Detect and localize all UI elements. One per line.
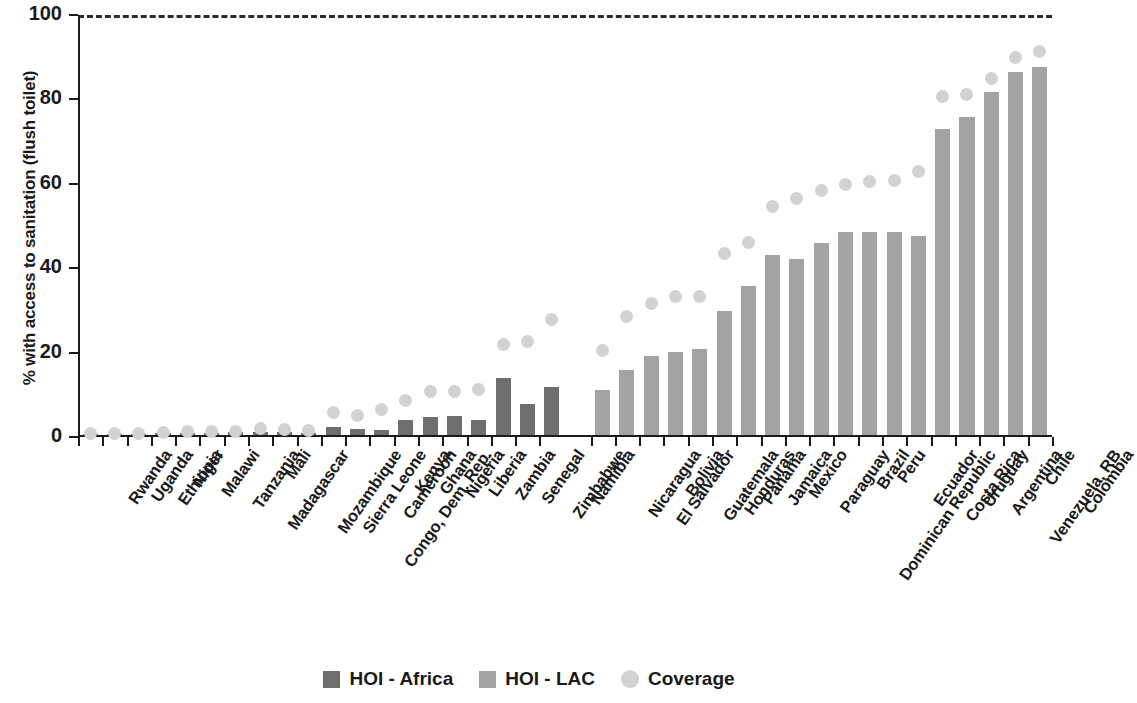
bar xyxy=(496,378,511,435)
coverage-dot xyxy=(157,426,170,439)
x-tick xyxy=(591,437,593,446)
x-tick xyxy=(785,437,787,446)
bar xyxy=(471,420,486,435)
x-tick xyxy=(467,437,469,446)
x-tick xyxy=(1052,437,1054,446)
coverage-dot xyxy=(545,313,558,326)
x-tick xyxy=(272,437,274,446)
bar xyxy=(887,232,902,435)
bar xyxy=(741,286,756,435)
y-tick-label-40: 40 xyxy=(16,255,62,278)
x-tick xyxy=(418,437,420,446)
legend-label: HOI - Africa xyxy=(349,668,453,690)
bar xyxy=(911,236,926,435)
x-tick xyxy=(979,437,981,446)
x-tick xyxy=(369,437,371,446)
x-tick xyxy=(442,437,444,446)
coverage-dot xyxy=(742,236,755,249)
x-tick xyxy=(224,437,226,446)
coverage-dot xyxy=(815,184,828,197)
bar xyxy=(935,129,950,435)
y-tick-100: 100 xyxy=(69,14,78,16)
bar xyxy=(520,404,535,435)
x-tick xyxy=(151,437,153,446)
y-tick-40: 40 xyxy=(69,267,78,269)
x-tick xyxy=(199,437,201,446)
coverage-dot xyxy=(521,335,534,348)
x-tick xyxy=(882,437,884,446)
coverage-dot xyxy=(497,338,510,351)
bar xyxy=(544,387,559,435)
coverage-dot xyxy=(766,200,779,213)
coverage-dot xyxy=(375,403,388,416)
x-tick xyxy=(102,437,104,446)
x-tick xyxy=(539,437,541,446)
x-tick xyxy=(955,437,957,446)
coverage-dot xyxy=(132,427,145,440)
bar xyxy=(423,417,438,435)
y-tick-60: 60 xyxy=(69,183,78,185)
x-tick xyxy=(761,437,763,446)
legend-item[interactable]: HOI - LAC xyxy=(479,668,595,690)
chart-legend: HOI - AfricaHOI - LACCoverage xyxy=(0,668,1058,690)
bar xyxy=(692,349,707,436)
coverage-dot xyxy=(693,290,706,303)
coverage-dot xyxy=(472,383,485,396)
bar xyxy=(595,390,610,435)
x-tick xyxy=(663,437,665,446)
bar xyxy=(862,232,877,435)
coverage-dot xyxy=(839,178,852,191)
bar xyxy=(717,311,732,435)
legend-label: Coverage xyxy=(648,668,735,690)
x-tick xyxy=(78,437,80,446)
legend-item[interactable]: Coverage xyxy=(621,668,735,690)
coverage-dot xyxy=(669,290,682,303)
y-tick-label-100: 100 xyxy=(16,2,62,25)
coverage-dot xyxy=(84,427,97,440)
bar xyxy=(765,255,780,435)
x-tick xyxy=(1028,437,1030,446)
bar xyxy=(984,92,999,435)
coverage-dot xyxy=(327,406,340,419)
x-tick xyxy=(712,437,714,446)
reference-line-100 xyxy=(78,15,1052,18)
plot-area: 020406080100 xyxy=(78,15,1052,437)
coverage-dot xyxy=(960,88,973,101)
bar xyxy=(619,370,634,435)
coverage-dot xyxy=(620,310,633,323)
legend-swatch-circle-icon xyxy=(621,670,639,688)
legend-swatch-square-icon xyxy=(479,671,496,688)
bar xyxy=(1032,67,1047,435)
bar xyxy=(668,352,683,435)
coverage-dot xyxy=(1009,51,1022,64)
coverage-dot xyxy=(790,192,803,205)
coverage-dot xyxy=(424,385,437,398)
x-tick xyxy=(175,437,177,446)
coverage-dot xyxy=(1033,45,1046,58)
y-tick-label-60: 60 xyxy=(16,171,62,194)
bar xyxy=(350,429,365,435)
x-tick xyxy=(248,437,250,446)
coverage-dot xyxy=(912,165,925,178)
legend-item[interactable]: HOI - Africa xyxy=(323,668,453,690)
y-tick-20: 20 xyxy=(69,352,78,354)
coverage-dot xyxy=(399,394,412,407)
coverage-dot xyxy=(863,175,876,188)
x-tick xyxy=(297,437,299,446)
bar xyxy=(1008,72,1023,435)
y-tick-0: 0 xyxy=(69,436,78,438)
x-tick xyxy=(1003,437,1005,446)
bar xyxy=(644,356,659,435)
bar xyxy=(447,416,462,435)
x-tick xyxy=(906,437,908,446)
coverage-dot xyxy=(108,427,121,440)
y-tick-label-20: 20 xyxy=(16,340,62,363)
coverage-dot xyxy=(645,297,658,310)
x-tick xyxy=(127,437,129,446)
coverage-dot xyxy=(936,90,949,103)
x-tick xyxy=(321,437,323,446)
x-tick xyxy=(639,437,641,446)
x-tick xyxy=(736,437,738,446)
coverage-dot xyxy=(351,409,364,422)
